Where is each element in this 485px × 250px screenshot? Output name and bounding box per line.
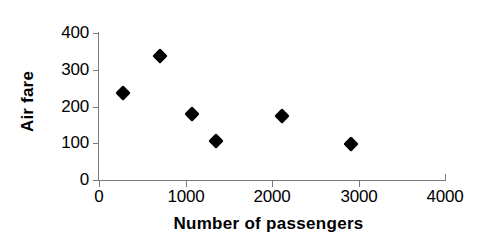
x-axis-title: Number of passengers: [0, 214, 485, 234]
x-tick-label: 0: [94, 188, 103, 205]
y-axis-title: Air fare: [18, 49, 38, 154]
y-tick-label: 0: [80, 171, 89, 188]
x-tick-label: 1000: [167, 188, 204, 205]
x-tick-label: 4000: [426, 188, 463, 205]
y-tick-label: 100: [61, 134, 89, 151]
x-tick-label: 2000: [253, 188, 290, 205]
plot-area: [99, 33, 445, 180]
scatter-chart-figure: 0100200300400 01000200030004000 Air fare…: [0, 0, 485, 250]
y-tick-label: 200: [61, 98, 89, 115]
y-tick-label: 300: [61, 61, 89, 78]
y-tick-label: 400: [61, 24, 89, 41]
x-axis-end-tick: [445, 174, 446, 181]
x-tick-label: 3000: [340, 188, 377, 205]
